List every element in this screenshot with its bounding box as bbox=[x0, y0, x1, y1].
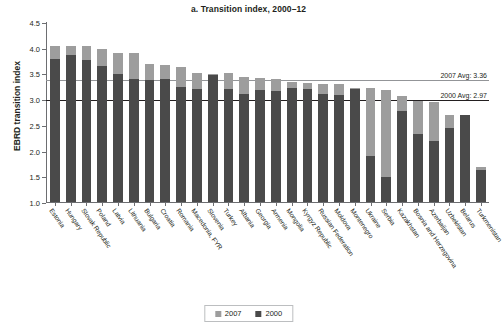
bar-segment-2000[interactable] bbox=[397, 111, 407, 202]
legend-item-2000[interactable]: 2000 bbox=[256, 309, 283, 318]
bar-segment-2000[interactable] bbox=[176, 87, 186, 202]
bar-segment-2000[interactable] bbox=[97, 66, 107, 202]
bar-segment-2000[interactable] bbox=[366, 156, 376, 202]
bar-group[interactable] bbox=[473, 22, 489, 202]
bar-group[interactable] bbox=[300, 22, 316, 202]
bar-segment-2000[interactable] bbox=[334, 95, 344, 202]
bar-segment-2007[interactable] bbox=[145, 64, 155, 80]
bar-segment-2000[interactable] bbox=[476, 170, 486, 202]
stacked-bar[interactable] bbox=[476, 167, 486, 202]
bar-segment-2007[interactable] bbox=[413, 101, 423, 133]
bar-group[interactable] bbox=[236, 22, 252, 202]
bar-segment-2007[interactable] bbox=[160, 65, 170, 79]
stacked-bar[interactable] bbox=[287, 82, 297, 202]
bar-segment-2007[interactable] bbox=[192, 73, 202, 89]
bar-segment-2007[interactable] bbox=[97, 49, 107, 65]
bar-segment-2000[interactable] bbox=[381, 177, 391, 202]
bar-segment-2007[interactable] bbox=[66, 46, 76, 55]
bar-group[interactable] bbox=[173, 22, 189, 202]
bar-segment-2000[interactable] bbox=[271, 91, 281, 202]
stacked-bar[interactable] bbox=[381, 90, 391, 202]
stacked-bar[interactable] bbox=[239, 77, 249, 202]
bar-group[interactable] bbox=[157, 22, 173, 202]
bar-segment-2007[interactable] bbox=[271, 79, 281, 92]
bar-segment-2007[interactable] bbox=[366, 88, 376, 156]
bar-segment-2000[interactable] bbox=[113, 74, 123, 202]
stacked-bar[interactable] bbox=[397, 96, 407, 202]
bar-segment-2000[interactable] bbox=[145, 80, 155, 202]
stacked-bar[interactable] bbox=[460, 115, 470, 202]
bar-segment-2000[interactable] bbox=[160, 79, 170, 202]
bar-group[interactable] bbox=[63, 22, 79, 202]
stacked-bar[interactable] bbox=[208, 74, 218, 202]
bar-segment-2007[interactable] bbox=[50, 46, 60, 59]
bar-group[interactable] bbox=[394, 22, 410, 202]
bar-segment-2000[interactable] bbox=[303, 89, 313, 202]
stacked-bar[interactable] bbox=[429, 102, 439, 202]
bar-segment-2000[interactable] bbox=[445, 128, 455, 202]
stacked-bar[interactable] bbox=[176, 67, 186, 202]
stacked-bar[interactable] bbox=[113, 53, 123, 202]
bar-segment-2000[interactable] bbox=[287, 88, 297, 202]
bar-group[interactable] bbox=[378, 22, 394, 202]
bar-segment-2000[interactable] bbox=[129, 79, 139, 202]
bar-segment-2000[interactable] bbox=[192, 89, 202, 202]
bar-segment-2000[interactable] bbox=[50, 59, 60, 202]
bar-segment-2007[interactable] bbox=[318, 84, 328, 94]
stacked-bar[interactable] bbox=[224, 73, 234, 202]
bar-segment-2007[interactable] bbox=[445, 115, 455, 128]
stacked-bar[interactable] bbox=[318, 84, 328, 202]
bar-group[interactable] bbox=[126, 22, 142, 202]
stacked-bar[interactable] bbox=[255, 78, 265, 202]
bar-segment-2000[interactable] bbox=[66, 55, 76, 202]
bar-group[interactable] bbox=[110, 22, 126, 202]
stacked-bar[interactable] bbox=[129, 53, 139, 202]
bar-segment-2000[interactable] bbox=[224, 89, 234, 202]
stacked-bar[interactable] bbox=[303, 83, 313, 202]
stacked-bar[interactable] bbox=[334, 84, 344, 202]
stacked-bar[interactable] bbox=[97, 49, 107, 202]
stacked-bar[interactable] bbox=[271, 79, 281, 202]
bar-group[interactable] bbox=[442, 22, 458, 202]
stacked-bar[interactable] bbox=[445, 115, 455, 202]
bar-segment-2007[interactable] bbox=[429, 102, 439, 142]
bar-group[interactable] bbox=[284, 22, 300, 202]
bar-segment-2007[interactable] bbox=[381, 90, 391, 177]
bar-segment-2000[interactable] bbox=[255, 90, 265, 202]
bar-segment-2007[interactable] bbox=[239, 77, 249, 93]
stacked-bar[interactable] bbox=[350, 88, 360, 202]
bar-segment-2007[interactable] bbox=[303, 83, 313, 90]
bar-segment-2007[interactable] bbox=[129, 53, 139, 79]
bar-group[interactable] bbox=[410, 22, 426, 202]
bar-segment-2000[interactable] bbox=[350, 89, 360, 202]
bar-group[interactable] bbox=[252, 22, 268, 202]
bar-segment-2007[interactable] bbox=[397, 96, 407, 111]
bar-group[interactable] bbox=[331, 22, 347, 202]
bar-group[interactable] bbox=[457, 22, 473, 202]
bar-segment-2007[interactable] bbox=[224, 73, 234, 89]
bar-segment-2000[interactable] bbox=[429, 141, 439, 202]
bar-group[interactable] bbox=[221, 22, 237, 202]
bar-group[interactable] bbox=[189, 22, 205, 202]
bar-group[interactable] bbox=[94, 22, 110, 202]
bar-group[interactable] bbox=[268, 22, 284, 202]
stacked-bar[interactable] bbox=[66, 46, 76, 202]
stacked-bar[interactable] bbox=[145, 64, 155, 202]
stacked-bar[interactable] bbox=[413, 101, 423, 202]
bar-group[interactable] bbox=[315, 22, 331, 202]
bar-group[interactable] bbox=[363, 22, 379, 202]
bar-segment-2000[interactable] bbox=[82, 60, 92, 202]
bar-segment-2007[interactable] bbox=[82, 46, 92, 60]
bar-group[interactable] bbox=[142, 22, 158, 202]
bar-segment-2007[interactable] bbox=[113, 53, 123, 75]
stacked-bar[interactable] bbox=[366, 88, 376, 202]
stacked-bar[interactable] bbox=[192, 73, 202, 202]
bar-segment-2000[interactable] bbox=[208, 75, 218, 202]
bar-group[interactable] bbox=[426, 22, 442, 202]
bar-segment-2007[interactable] bbox=[255, 78, 265, 90]
bar-segment-2007[interactable] bbox=[334, 84, 344, 95]
legend-item-2007[interactable]: 2007 bbox=[215, 309, 242, 318]
bar-group[interactable] bbox=[79, 22, 95, 202]
bar-group[interactable] bbox=[205, 22, 221, 202]
bar-segment-2000[interactable] bbox=[413, 134, 423, 202]
